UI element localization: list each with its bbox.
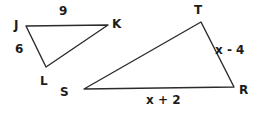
vertex-label-t: T [194, 4, 202, 16]
vertex-label-r: R [239, 84, 248, 96]
side-label-jl: 6 [15, 43, 23, 55]
triangle-jkl-outline [26, 25, 108, 67]
vertex-label-l: L [40, 75, 48, 87]
triangle-str [84, 22, 234, 89]
diagram-canvas: J K L 9 6 T R S x - 4 x + 2 [0, 0, 257, 113]
side-label-sr: x + 2 [146, 94, 181, 106]
vertex-label-j: J [14, 19, 18, 31]
triangle-str-outline [84, 22, 234, 89]
side-label-tr: x - 4 [215, 44, 244, 56]
vertex-label-k: K [112, 18, 121, 30]
vertex-label-s: S [60, 86, 69, 98]
side-label-jk: 9 [59, 5, 67, 17]
triangle-jkl [26, 25, 108, 67]
